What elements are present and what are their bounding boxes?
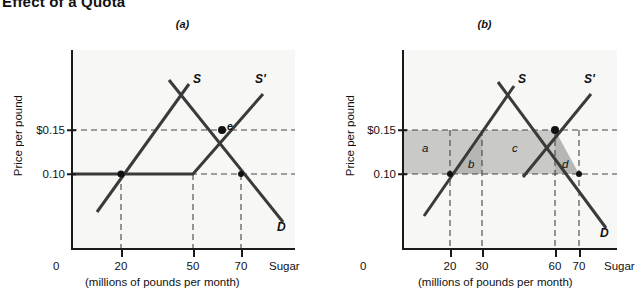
panel-a-label-point-e: e	[227, 120, 233, 132]
panel-b-label: (b)	[314, 18, 639, 30]
panel-b-region-label-a: a	[422, 142, 428, 154]
panel-a-label-demand: D	[277, 220, 286, 234]
panel-a-xtick-label-20: 20	[115, 260, 128, 272]
panel-a-x-axis-title: Sugar	[269, 260, 300, 272]
panel-a-xtick-mark-50	[193, 250, 195, 257]
panel-b-ytick-mark-015	[398, 129, 407, 131]
panel-b-xtick-label-20: 20	[444, 260, 457, 272]
panel-b-region-label-c: c	[512, 142, 518, 154]
panel-b-point-q70	[576, 171, 582, 177]
panel-b-xtick-mark-20	[450, 250, 452, 257]
panel-b-label-supply: S	[518, 72, 526, 86]
panel-a-label-supply: S	[193, 72, 201, 86]
panel-a-point-q70	[238, 171, 244, 177]
panel-a-ytick-mark-010	[67, 173, 76, 175]
panel-a-xtick-label-70: 70	[235, 260, 248, 272]
panel-a-point-e	[218, 126, 226, 134]
panel-b-ytick-label-015: $0.15	[344, 124, 396, 136]
panel-a-xtick-mark-70	[241, 250, 243, 257]
panel-b-x-axis-title: Sugar	[604, 260, 635, 272]
panel-a-point-q20	[118, 171, 125, 178]
panel-b-region-label-b: b	[468, 158, 474, 170]
panel-a-curve-demand	[169, 80, 283, 222]
panel-a-ytick-label-015: $0.15	[13, 124, 65, 136]
panel-a-xtick-label-0: 0	[53, 260, 59, 272]
panel-a-label: (a)	[0, 18, 339, 30]
panel-a-xtick-mark-20	[121, 250, 123, 257]
panel-a-x-axis	[71, 248, 295, 250]
panel-b-xtick-label-60: 60	[549, 260, 562, 272]
panel-b-xtick-mark-30	[482, 250, 484, 257]
panel-b-x-axis	[402, 248, 617, 250]
panel-b: (b) Price per pound	[314, 0, 627, 306]
panel-a-ytick-mark-015	[67, 129, 76, 131]
panel-b-ytick-mark-010	[398, 173, 407, 175]
panel-b-x-axis-subtitle: (millions of pounds per month)	[418, 276, 573, 288]
panel-b-xtick-mark-60	[555, 250, 557, 257]
panel-a-xtick-label-50: 50	[187, 260, 200, 272]
panel-b-xtick-label-0: 0	[360, 260, 366, 272]
panel-a-x-axis-subtitle: (millions of pounds per month)	[85, 276, 240, 288]
panel-b-plot: S S' D a b c d $0.15 0.10 0 20 30 60 70 …	[402, 50, 617, 250]
panel-b-point-q20	[447, 171, 453, 177]
panel-b-y-axis	[402, 50, 404, 250]
panel-b-label-supply-quota: S'	[584, 72, 595, 86]
panel-b-ytick-label-010: 0.10	[344, 168, 396, 180]
panel-b-region-label-d: d	[562, 158, 568, 170]
panel-b-xtick-label-70: 70	[573, 260, 586, 272]
panel-a-curve-supply	[97, 84, 189, 212]
panel-a-ytick-label-010: 0.10	[13, 168, 65, 180]
panel-b-xtick-mark-70	[579, 250, 581, 257]
panel-a-y-axis	[71, 50, 73, 250]
panel-b-point-equilibrium	[551, 126, 559, 134]
panel-a-plot: S S' D e $0.15 0.10 0 20 50 70 Sugar (mi…	[71, 50, 295, 250]
panel-a-label-supply-quota: S'	[255, 72, 266, 86]
panel-b-xtick-label-30: 30	[476, 260, 489, 272]
panel-a: (a) Price per pound S S' D	[0, 0, 313, 306]
panel-b-label-demand: D	[600, 226, 609, 240]
